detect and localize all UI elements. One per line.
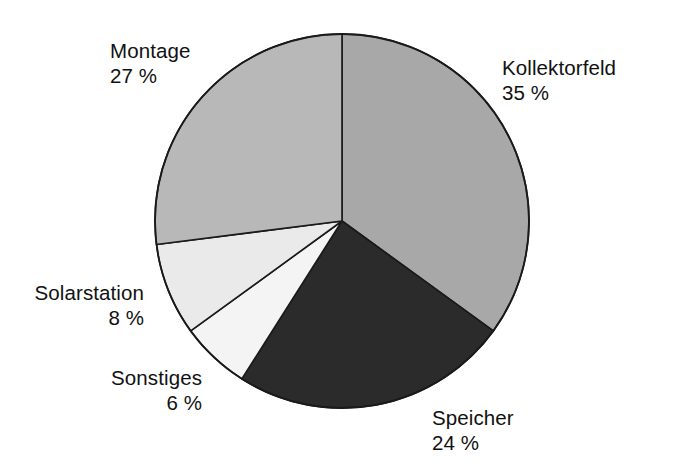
pie-label-sonstiges: Sonstiges 6 %	[111, 365, 202, 415]
pie-label-montage-value: 27 %	[110, 63, 190, 88]
pie-label-solarstation: Solarstation 8 %	[35, 280, 144, 330]
pie-label-sonstiges-value: 6 %	[111, 390, 202, 415]
pie-label-speicher: Speicher 24 %	[432, 405, 514, 455]
pie-chart-figure: Montage 27 % Kollektorfeld 35 % Speicher…	[0, 0, 674, 476]
pie-label-solarstation-value: 8 %	[35, 305, 144, 330]
pie-label-montage-name: Montage	[110, 38, 190, 63]
pie-label-kollektorfeld: Kollektorfeld 35 %	[502, 55, 616, 105]
pie-label-kollektorfeld-value: 35 %	[502, 80, 616, 105]
pie-label-solarstation-name: Solarstation	[35, 280, 144, 305]
pie-label-montage: Montage 27 %	[110, 38, 190, 88]
pie-label-speicher-value: 24 %	[432, 430, 514, 455]
pie-label-kollektorfeld-name: Kollektorfeld	[502, 55, 616, 80]
pie-label-speicher-name: Speicher	[432, 405, 514, 430]
pie-slice-group	[155, 34, 529, 408]
pie-label-sonstiges-name: Sonstiges	[111, 365, 202, 390]
